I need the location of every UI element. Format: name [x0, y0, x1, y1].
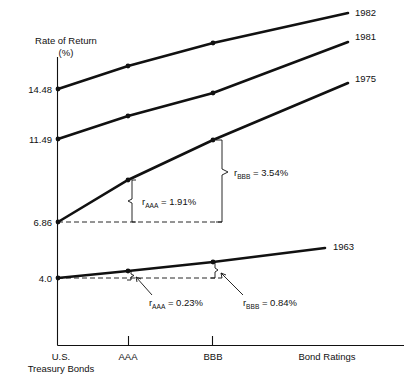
y-axis-label-line1: Rate of Return [35, 35, 97, 46]
marker-1981-us [56, 137, 61, 142]
r-subscript: BBB [237, 173, 251, 180]
marker-1982-aaa [126, 64, 131, 69]
bracket-r-aaa-1975 [128, 180, 136, 222]
x-tick-labels: U.S. Treasury Bonds AAA BBB Bond Ratings [28, 351, 356, 374]
r-value: = 0.84% [259, 297, 297, 308]
r-subscript: AAA [152, 303, 166, 310]
series-line-1963 [58, 248, 325, 278]
y-tick-label-4-0: 4.0 [39, 273, 52, 284]
y-tick-label-11-49: 11.49 [29, 134, 52, 145]
annotation-r-bbb-1963: rBBB = 0.84% [211, 262, 298, 310]
x-tick-label-us: U.S. [52, 351, 70, 362]
y-axis-label: Rate of Return (%) [35, 35, 97, 58]
marker-1975-bbb [211, 138, 216, 143]
series-label-1982: 1982 [355, 7, 376, 18]
series-line-1975 [58, 83, 348, 222]
series-1963: 1963 [56, 241, 355, 280]
annotation-r-aaa-1975: rAAA = 1.91% [128, 180, 197, 222]
annotation-label-r-bbb-1975: rBBB = 3.54% [234, 167, 289, 180]
x-tick-label-bbb: BBB [203, 351, 222, 362]
annotation-label-r-bbb-1963: rBBB = 0.84% [243, 297, 298, 310]
y-tick-labels: 14.48 11.49 6.86 4.0 [28, 84, 52, 284]
r-subscript: AAA [145, 202, 159, 209]
r-value: = 0.23% [165, 297, 203, 308]
series-line-1982 [58, 13, 348, 89]
marker-1975-aaa [126, 178, 131, 183]
annotation-r-aaa-1963: rAAA = 0.23% [127, 271, 204, 310]
series-label-1963: 1963 [333, 241, 354, 252]
series-label-1975: 1975 [355, 73, 376, 84]
bracket-r-bbb-1963 [211, 262, 218, 278]
bracket-r-bbb-1975 [216, 140, 228, 222]
rate-of-return-chart: Rate of Return (%) 14.48 11.49 6.86 4.0 … [0, 0, 410, 391]
annotation-label-r-aaa-1975: rAAA = 1.91% [142, 196, 197, 209]
annotation-label-r-aaa-1963: rAAA = 0.23% [149, 297, 204, 310]
y-tick-label-6-86: 6.86 [34, 217, 53, 228]
series-1975: 1975 [56, 73, 377, 224]
x-tick-label-us-sub: Treasury Bonds [28, 363, 95, 374]
series-1981: 1981 [56, 31, 377, 141]
marker-1981-aaa [126, 114, 131, 119]
chart-container: Rate of Return (%) 14.48 11.49 6.86 4.0 … [0, 0, 410, 391]
series-line-1981 [58, 42, 348, 139]
y-axis-label-line2: (%) [59, 47, 74, 58]
x-tick-label-aaa: AAA [118, 351, 138, 362]
r-value: = 1.91% [158, 196, 196, 207]
y-tick-label-14-48: 14.48 [28, 84, 52, 95]
arrow-r-aaa-1963 [136, 277, 152, 295]
series-label-1981: 1981 [355, 31, 376, 42]
marker-1982-us [56, 87, 61, 92]
annotation-r-bbb-1975: rBBB = 3.54% [216, 140, 289, 222]
arrow-r-bbb-1963 [221, 273, 243, 295]
x-axis-label: Bond Ratings [298, 351, 355, 362]
axes [58, 57, 405, 346]
marker-1982-bbb [211, 41, 216, 46]
marker-1981-bbb [211, 91, 216, 96]
r-value: = 3.54% [250, 167, 288, 178]
r-subscript: BBB [246, 303, 260, 310]
